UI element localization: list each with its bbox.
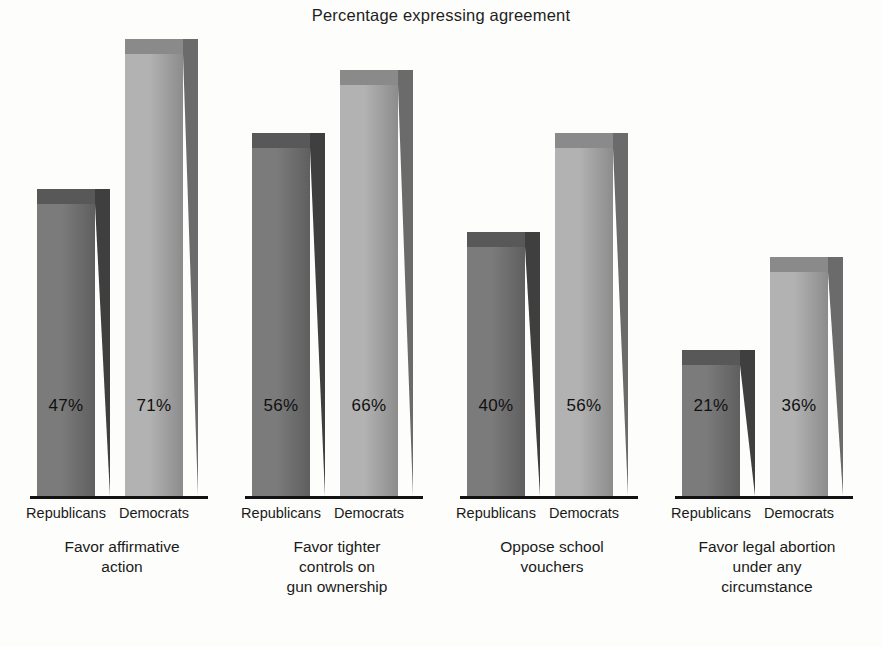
bar-side-face (613, 133, 628, 496)
category-label-line: Favor tighter (237, 537, 437, 557)
series-label-democrats: Democrats (324, 505, 414, 521)
bar-front-face (467, 247, 525, 496)
bar-front-face (682, 365, 740, 496)
category-label-line: circumstance (667, 577, 867, 597)
bar-republicans (682, 350, 740, 496)
group-baseline (460, 496, 638, 499)
category-label-line: Favor affirmative (22, 537, 222, 557)
bar-value-label: 47% (37, 396, 95, 416)
category-label-line: vouchers (452, 557, 652, 577)
category-label: Oppose schoolvouchers (452, 537, 652, 577)
series-label-republicans: Republicans (451, 505, 541, 521)
bar-front-face (125, 54, 183, 496)
bar-group: 21%Republicans36%DemocratsFavor legal ab… (667, 0, 867, 647)
plot-area: 47%Republicans71%DemocratsFavor affirmat… (0, 0, 882, 647)
series-label-democrats: Democrats (754, 505, 844, 521)
bar-front-face (340, 85, 398, 496)
category-label-line: gun ownership (237, 577, 437, 597)
bar-democrats (125, 39, 183, 496)
bar-republicans (467, 232, 525, 496)
bar-value-label: 36% (770, 396, 828, 416)
series-label-republicans: Republicans (21, 505, 111, 521)
series-label-democrats: Democrats (109, 505, 199, 521)
group-baseline (245, 496, 423, 499)
group-baseline (30, 496, 208, 499)
bar-top-face (770, 257, 828, 272)
bar-group: 47%Republicans71%DemocratsFavor affirmat… (22, 0, 222, 647)
bar-side-face (95, 189, 110, 496)
category-label-line: under any (667, 557, 867, 577)
bar-top-face (555, 133, 613, 148)
category-label: Favor tightercontrols ongun ownership (237, 537, 437, 597)
bar-democrats (555, 133, 613, 496)
category-label: Favor affirmativeaction (22, 537, 222, 577)
bar-top-face (252, 133, 310, 148)
bar-top-face (682, 350, 740, 365)
bar-value-label: 66% (340, 396, 398, 416)
group-baseline (675, 496, 853, 499)
bar-side-face (183, 39, 198, 496)
bar-top-face (37, 189, 95, 204)
bar-top-face (125, 39, 183, 54)
bar-front-face (252, 148, 310, 496)
bar-democrats (340, 70, 398, 496)
bar-chart: Percentage expressing agreement 47%Repub… (0, 0, 882, 647)
bar-value-label: 56% (555, 396, 613, 416)
bar-side-face (310, 133, 325, 496)
series-label-republicans: Republicans (666, 505, 756, 521)
bar-top-face (340, 70, 398, 85)
bar-democrats (770, 257, 828, 496)
bar-value-label: 40% (467, 396, 525, 416)
bar-side-face (525, 232, 540, 496)
bar-republicans (37, 189, 95, 496)
bar-front-face (555, 148, 613, 496)
bar-side-face (740, 350, 755, 496)
bar-group: 40%Republicans56%DemocratsOppose schoolv… (452, 0, 652, 647)
category-label-line: action (22, 557, 222, 577)
series-label-republicans: Republicans (236, 505, 326, 521)
bar-side-face (398, 70, 413, 496)
category-label-line: Oppose school (452, 537, 652, 557)
bar-side-face (828, 257, 843, 496)
category-label: Favor legal abortionunder anycircumstanc… (667, 537, 867, 597)
bar-value-label: 71% (125, 396, 183, 416)
bar-republicans (252, 133, 310, 496)
bar-value-label: 56% (252, 396, 310, 416)
series-label-democrats: Democrats (539, 505, 629, 521)
category-label-line: controls on (237, 557, 437, 577)
bar-front-face (37, 204, 95, 496)
bar-top-face (467, 232, 525, 247)
bar-front-face (770, 272, 828, 496)
bar-value-label: 21% (682, 396, 740, 416)
category-label-line: Favor legal abortion (667, 537, 867, 557)
bar-group: 56%Republicans66%DemocratsFavor tighterc… (237, 0, 437, 647)
